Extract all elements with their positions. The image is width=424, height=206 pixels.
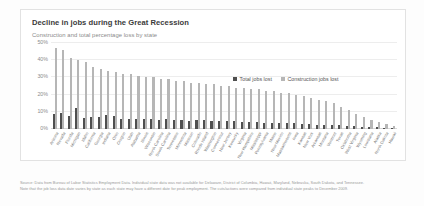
- x-axis-label-slot: Arizona: [51, 130, 59, 166]
- bar-group: [156, 43, 164, 129]
- bar-group: [216, 43, 224, 129]
- bar-group: [89, 43, 97, 129]
- chart-title: Decline in jobs during the Great Recessi…: [32, 18, 189, 27]
- bar-construction-jobs-lost: [70, 58, 72, 129]
- bar-construction-jobs-lost: [145, 77, 147, 129]
- x-axis-label-slot: Georgia: [96, 130, 104, 166]
- bar-construction-jobs-lost: [167, 79, 169, 129]
- bar-group: [201, 43, 209, 129]
- x-axis-label-slot: Indiana: [104, 130, 112, 166]
- bar-group: [171, 43, 179, 129]
- x-axis-label-slot: Nevada: [59, 130, 67, 166]
- bar-construction-jobs-lost: [77, 60, 79, 129]
- bar-group: [314, 43, 322, 129]
- bar-construction-jobs-lost: [213, 84, 215, 129]
- bar-group: [389, 43, 397, 129]
- chart-figure: Decline in jobs during the Great Recessi…: [0, 0, 424, 206]
- bar-group: [292, 43, 300, 129]
- bar-construction-jobs-lost: [243, 88, 245, 129]
- bar-construction-jobs-lost: [100, 69, 102, 129]
- y-axis-tick-label: 40%: [37, 56, 48, 62]
- bar-construction-jobs-lost: [378, 122, 380, 129]
- bar-group: [126, 43, 134, 129]
- bar-construction-jobs-lost: [295, 95, 297, 129]
- bar-group: [111, 43, 119, 129]
- bar-construction-jobs-lost: [85, 62, 87, 129]
- bar-construction-jobs-lost: [288, 93, 290, 129]
- bar-group: [141, 43, 149, 129]
- bar-group: [254, 43, 262, 129]
- bar-group: [81, 43, 89, 129]
- x-axis-label-slot: Vermont: [329, 130, 337, 166]
- bar-group: [104, 43, 112, 129]
- bar-group: [329, 43, 337, 129]
- y-axis-tick-label: 10%: [37, 108, 48, 114]
- bar-construction-jobs-lost: [107, 71, 109, 129]
- chart-subtitle: Construction and total percentage loss b…: [32, 32, 157, 38]
- bar-construction-jobs-lost: [393, 126, 395, 129]
- bar-group: [231, 43, 239, 129]
- bar-group: [374, 43, 382, 129]
- x-axis-label-slot: Arkansas: [314, 130, 322, 166]
- bar-group: [66, 43, 74, 129]
- x-axis-label-slot: Missouri: [186, 130, 194, 166]
- bar-construction-jobs-lost: [265, 91, 267, 129]
- x-axis-label-slot: Florida: [66, 130, 74, 166]
- bar-construction-jobs-lost: [385, 124, 387, 129]
- bar-construction-jobs-lost: [258, 89, 260, 129]
- bar-construction-jobs-lost: [160, 79, 162, 129]
- bar-construction-jobs-lost: [325, 101, 327, 129]
- bar-construction-jobs-lost: [370, 120, 372, 129]
- x-axis-labels: ArizonaNevadaFloridaMichiganIdahoCalifor…: [51, 130, 397, 166]
- bar-group: [284, 43, 292, 129]
- bar-construction-jobs-lost: [115, 72, 117, 129]
- bar-construction-jobs-lost: [62, 50, 64, 129]
- bar-construction-jobs-lost: [355, 114, 357, 129]
- bar-group: [352, 43, 360, 129]
- x-axis-label-slot: Utah: [126, 130, 134, 166]
- bar-construction-jobs-lost: [273, 91, 275, 129]
- bar-series-container: [51, 43, 397, 129]
- bar-group: [367, 43, 375, 129]
- x-axis-label-slot: Montana: [322, 130, 330, 166]
- bar-construction-jobs-lost: [205, 84, 207, 129]
- bar-construction-jobs-lost: [318, 100, 320, 129]
- bar-construction-jobs-lost: [348, 110, 350, 129]
- y-axis-tick-label: 0%: [40, 125, 48, 131]
- x-axis-label-slot: North Dakota: [382, 130, 390, 166]
- x-axis-label-slot: Hawaii: [389, 130, 397, 166]
- bar-group: [59, 43, 67, 129]
- bar-group: [239, 43, 247, 129]
- bar-construction-jobs-lost: [190, 83, 192, 129]
- x-axis-label-slot: Iowa: [292, 130, 300, 166]
- bar-construction-jobs-lost: [137, 76, 139, 129]
- bar-construction-jobs-lost: [92, 67, 94, 129]
- chart-card: Decline in jobs during the Great Recessi…: [20, 9, 406, 161]
- x-axis-label-slot: Ohio: [111, 130, 119, 166]
- y-axis-tick-label: 50%: [37, 39, 48, 45]
- x-axis-label-slot: California: [89, 130, 97, 166]
- footnotes: Source: Data from Bureau of Labor Statis…: [20, 180, 412, 192]
- bar-construction-jobs-lost: [280, 93, 282, 129]
- bar-construction-jobs-lost: [183, 81, 185, 129]
- bar-group: [119, 43, 127, 129]
- x-axis-tick-label: Hawaii: [387, 131, 397, 144]
- bar-construction-jobs-lost: [122, 74, 124, 129]
- bar-group: [186, 43, 194, 129]
- bar-group: [344, 43, 352, 129]
- bar-construction-jobs-lost: [333, 103, 335, 129]
- bar-group: [164, 43, 172, 129]
- bar-group: [337, 43, 345, 129]
- x-axis-label-slot: Pennsylvania: [261, 130, 269, 166]
- bar-group: [179, 43, 187, 129]
- x-axis-label-slot: Michigan: [74, 130, 82, 166]
- bar-group: [74, 43, 82, 129]
- bar-construction-jobs-lost: [152, 77, 154, 129]
- x-axis-label-slot: Massachusetts: [284, 130, 292, 166]
- bar-group: [194, 43, 202, 129]
- bar-group: [246, 43, 254, 129]
- bar-construction-jobs-lost: [55, 48, 57, 129]
- bar-construction-jobs-lost: [198, 83, 200, 129]
- bar-group: [322, 43, 330, 129]
- y-axis-tick-label: 20%: [37, 91, 48, 97]
